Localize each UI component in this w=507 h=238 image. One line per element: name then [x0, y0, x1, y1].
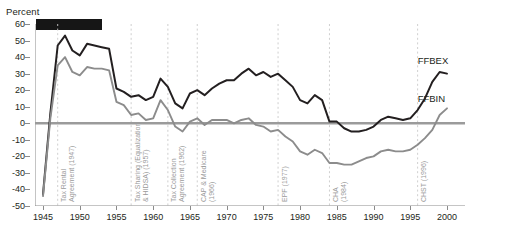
- series-label-ffbex: FFBEX: [418, 55, 449, 66]
- event-annotation-line: (1966): [207, 150, 215, 202]
- x-tick-mark: [410, 206, 411, 210]
- event-annotation-line: Tax Sharing (Equalization: [134, 123, 142, 202]
- plot-area: [35, 24, 465, 206]
- y-tick-mark: [25, 24, 30, 25]
- series-label-ffbin: FFBIN: [418, 93, 445, 104]
- event-annotation: Tax Sharing (Equalization& HIDSA) (1957): [134, 123, 149, 202]
- y-tick-mark: [25, 173, 30, 174]
- x-tick-label: 2000: [437, 212, 457, 222]
- y-tick-label: 10: [15, 102, 25, 112]
- y-tick-mark: [25, 90, 30, 91]
- series-line-ffbin: [43, 57, 447, 196]
- event-annotation-line: (1984): [340, 182, 348, 202]
- y-tick-mark: [25, 123, 30, 124]
- y-tick-label: 20: [15, 85, 25, 95]
- x-tick-label: 1950: [70, 212, 90, 222]
- event-annotation-line: CHA: [332, 182, 340, 202]
- x-tick-mark: [263, 206, 264, 210]
- event-annotation: CHST (1996): [420, 161, 428, 202]
- event-annotation: Tax RentalAgreement (1947): [60, 146, 75, 202]
- x-tick-label: 1970: [217, 212, 237, 222]
- y-tick-mark: [25, 206, 30, 207]
- chart-svg: [35, 24, 465, 206]
- x-tick-mark: [300, 206, 301, 210]
- y-tick-mark: [25, 57, 30, 58]
- y-tick-mark: [25, 156, 30, 157]
- y-tick-label: 30: [15, 69, 25, 79]
- y-tick-label: -10: [12, 135, 25, 145]
- y-tick-label: -20: [12, 151, 25, 161]
- event-annotation-line: CAP & Medicare: [200, 150, 208, 202]
- y-tick-label: 40: [15, 52, 25, 62]
- y-tick-mark: [25, 107, 30, 108]
- event-annotation: CAP & Medicare(1966): [200, 150, 215, 202]
- event-annotation-line: EPF (1977): [281, 166, 289, 202]
- y-tick-mark: [25, 189, 30, 190]
- y-tick-label: 60: [15, 19, 25, 29]
- x-tick-mark: [190, 206, 191, 210]
- event-annotation: EPF (1977): [281, 166, 289, 202]
- x-tick-mark: [374, 206, 375, 210]
- x-tick-mark: [227, 206, 228, 210]
- x-tick-label: 1945: [33, 212, 53, 222]
- x-tick-label: 1995: [400, 212, 420, 222]
- x-tick-label: 1985: [327, 212, 347, 222]
- x-tick-label: 1965: [180, 212, 200, 222]
- y-tick-mark: [25, 140, 30, 141]
- y-tick-label: -30: [12, 168, 25, 178]
- event-annotation-line: CHST (1996): [420, 161, 428, 202]
- y-axis-tick-labels: 6050403020100-10-20-30-40-50: [0, 0, 30, 238]
- x-tick-mark: [116, 206, 117, 210]
- series-line-ffbex: [43, 36, 447, 195]
- x-tick-label: 1960: [143, 212, 163, 222]
- x-tick-label: 1980: [290, 212, 310, 222]
- y-tick-label: -50: [12, 201, 25, 211]
- event-annotation-line: Agreement (1962): [178, 146, 186, 202]
- y-tick-label: -40: [12, 184, 25, 194]
- event-annotation-line: & HIDSA) (1957): [141, 123, 149, 202]
- x-tick-label: 1975: [253, 212, 273, 222]
- x-tick-mark: [43, 206, 44, 210]
- event-annotation: Tax CollectionAgreement (1962): [170, 146, 185, 202]
- y-tick-label: 50: [15, 36, 25, 46]
- x-tick-mark: [337, 206, 338, 210]
- x-tick-label: 1955: [106, 212, 126, 222]
- event-annotation: CHA(1984): [332, 182, 347, 202]
- y-tick-mark: [25, 74, 30, 75]
- x-tick-mark: [447, 206, 448, 210]
- x-tick-mark: [80, 206, 81, 210]
- y-tick-mark: [25, 41, 30, 42]
- event-annotation-line: Agreement (1947): [68, 146, 76, 202]
- x-tick-label: 1990: [364, 212, 384, 222]
- chart-figure: Percent 6050403020100-10-20-30-40-50 194…: [0, 0, 507, 238]
- x-tick-mark: [153, 206, 154, 210]
